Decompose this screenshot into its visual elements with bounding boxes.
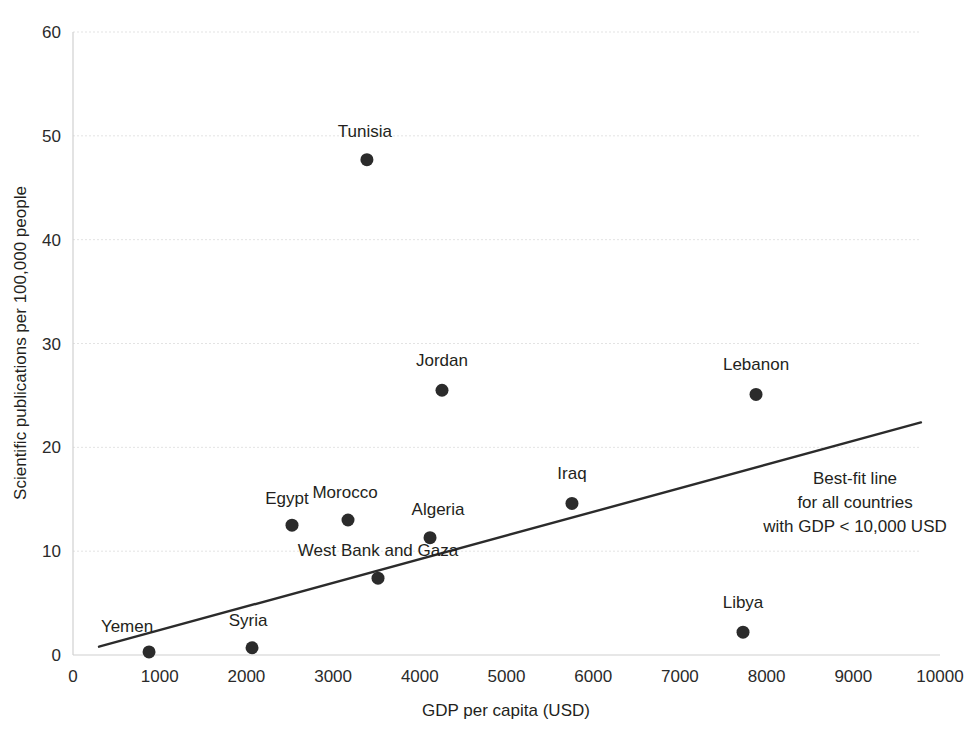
data-point-label-west-bank-and-gaza: West Bank and Gaza <box>298 541 459 560</box>
data-point-label-libya: Libya <box>723 593 764 612</box>
data-point-label-algeria: Algeria <box>412 500 465 519</box>
data-point-iraq[interactable] <box>565 497 578 510</box>
data-point-label-yemen: Yemen <box>101 617 153 636</box>
data-point-label-syria: Syria <box>229 611 268 630</box>
x-tick-label-3000: 3000 <box>314 667 352 686</box>
data-point-morocco[interactable] <box>342 514 355 527</box>
data-point-west-bank-and-gaza[interactable] <box>372 572 385 585</box>
y-tick-label-40: 40 <box>42 231 61 250</box>
x-tick-label-1000: 1000 <box>141 667 179 686</box>
chart-canvas: 0102030405060 01000200030004000500060007… <box>0 0 978 741</box>
annotation-line-3: with GDP < 10,000 USD <box>762 517 946 536</box>
x-tick-label-2000: 2000 <box>227 667 265 686</box>
x-tick-label-5000: 5000 <box>488 667 526 686</box>
data-point-label-egypt: Egypt <box>265 489 309 508</box>
data-point-label-morocco: Morocco <box>312 483 377 502</box>
x-tick-label-9000: 9000 <box>834 667 872 686</box>
data-point-egypt[interactable] <box>286 519 299 532</box>
annotation-line-2: for all countries <box>797 493 912 512</box>
x-tick-label-4000: 4000 <box>401 667 439 686</box>
scatter-chart: 0102030405060 01000200030004000500060007… <box>0 0 978 741</box>
y-tick-label-60: 60 <box>42 23 61 42</box>
x-tick-label-8000: 8000 <box>748 667 786 686</box>
data-point-syria[interactable] <box>246 641 259 654</box>
data-point-yemen[interactable] <box>143 645 156 658</box>
y-tick-label-0: 0 <box>52 646 61 665</box>
y-tick-label-10: 10 <box>42 542 61 561</box>
data-point-label-lebanon: Lebanon <box>723 355 789 374</box>
data-point-label-jordan: Jordan <box>416 351 468 370</box>
data-point-tunisia[interactable] <box>360 153 373 166</box>
y-tick-label-30: 30 <box>42 335 61 354</box>
y-axis-title: Scientific publications per 100,000 peop… <box>11 186 30 500</box>
data-point-label-iraq: Iraq <box>557 464 586 483</box>
x-tick-label-6000: 6000 <box>574 667 612 686</box>
data-point-libya[interactable] <box>737 626 750 639</box>
x-tick-label-7000: 7000 <box>661 667 699 686</box>
y-tick-label-20: 20 <box>42 438 61 457</box>
x-tick-label-0: 0 <box>68 667 77 686</box>
data-point-jordan[interactable] <box>435 384 448 397</box>
x-axis-title: GDP per capita (USD) <box>422 701 590 720</box>
annotation-line-1: Best-fit line <box>813 469 897 488</box>
y-tick-label-50: 50 <box>42 127 61 146</box>
x-tick-label-10000: 10000 <box>916 667 963 686</box>
data-point-label-tunisia: Tunisia <box>338 122 393 141</box>
data-point-lebanon[interactable] <box>750 388 763 401</box>
